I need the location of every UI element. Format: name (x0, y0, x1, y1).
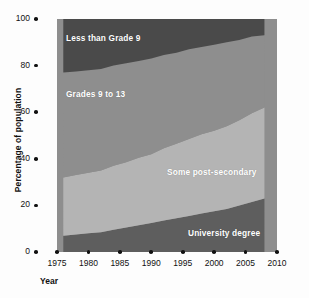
x-tick-label: 2005 (229, 258, 263, 268)
x-tick-dot (87, 250, 91, 254)
x-tick-label: 2000 (197, 258, 231, 268)
y-tick-label: 0 (0, 247, 30, 256)
y-tick-dot (34, 157, 38, 161)
x-tick-dot (275, 250, 279, 254)
x-tick-label: 1980 (71, 258, 105, 268)
y-tick-label: 40 (0, 154, 30, 163)
x-tick-label: 1975 (40, 258, 74, 268)
y-axis-title: Percentage of population (13, 70, 23, 210)
x-tick-label: 1985 (103, 258, 137, 268)
x-tick-dot (212, 250, 216, 254)
y-tick-label: 100 (0, 14, 30, 23)
x-tick-dot (244, 250, 248, 254)
series-label-university-degree: University degree (188, 228, 260, 238)
area-bands (57, 19, 277, 252)
x-tick-dot (149, 250, 153, 254)
y-tick-dot (34, 250, 38, 254)
y-tick-dot (34, 110, 38, 114)
y-tick-label: 80 (0, 61, 30, 70)
series-label-grades-9-to-13: Grades 9 to 13 (66, 89, 125, 99)
x-axis-title: Year (40, 276, 58, 286)
x-tick-label: 1995 (166, 258, 200, 268)
x-tick-dot (55, 250, 59, 254)
plot-area (57, 19, 277, 252)
x-tick-dot (118, 250, 122, 254)
y-tick-label: 20 (0, 200, 30, 209)
series-label-some-post-secondary: Some post-secondary (167, 167, 257, 177)
x-tick-label: 2010 (260, 258, 294, 268)
series-label-less-than-grade-9: Less than Grade 9 (66, 33, 140, 43)
y-tick-dot (34, 64, 38, 68)
stacked-area-chart: Percentage of population 020406080100 Le… (0, 0, 309, 298)
x-tick-dot (181, 250, 185, 254)
y-tick-label: 60 (0, 107, 30, 116)
x-tick-label: 1990 (134, 258, 168, 268)
y-tick-dot (34, 204, 38, 208)
y-tick-dot (34, 17, 38, 21)
